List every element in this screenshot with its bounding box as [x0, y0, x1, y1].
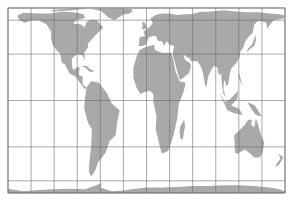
landmass-arctic-islands	[50, 9, 89, 12]
landmass-north-america	[17, 12, 103, 89]
landmass-new-guinea	[247, 102, 262, 117]
landmass-new-zealand	[275, 154, 284, 168]
landmass-indonesia	[220, 91, 243, 115]
landmass-greenland	[91, 9, 133, 21]
landmass-caribbean	[82, 66, 94, 72]
landmass-madagascar	[180, 120, 185, 140]
world-map	[0, 0, 294, 200]
landmass-southeast-asia	[239, 72, 244, 89]
landmass-south-america	[84, 81, 119, 176]
